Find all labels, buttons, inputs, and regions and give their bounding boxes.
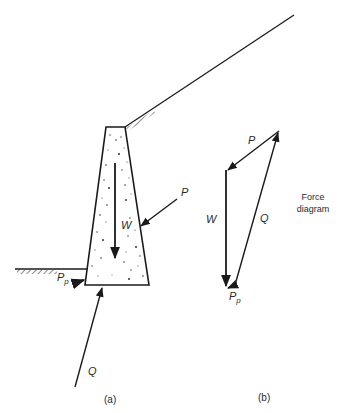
active-thrust-label: P	[181, 186, 189, 198]
passive-thrust-arrow	[75, 280, 84, 283]
weight-label: W	[121, 219, 133, 231]
force-diagram-title-line2: diagram	[297, 204, 330, 214]
panel-a: W P Pp Q (a)	[15, 15, 294, 405]
force-p-label: P	[248, 134, 256, 146]
retaining-wall-diagram: W P Pp Q (a) P W Pp Q Force diagram (b)	[0, 0, 343, 413]
force-q-label: Q	[260, 212, 269, 224]
force-q-vector	[235, 133, 278, 285]
backfill-slope-line	[125, 15, 294, 127]
active-thrust-arrow	[141, 199, 177, 226]
force-w-label: W	[206, 213, 218, 225]
gravity-wall	[85, 127, 149, 285]
ground-hatching	[17, 270, 57, 274]
panel-b-force-diagram: P W Pp Q Force diagram (b)	[206, 131, 329, 403]
slope-hatching	[126, 110, 155, 131]
passive-thrust-label: Pp	[57, 271, 69, 286]
panel-a-caption: (a)	[104, 394, 116, 405]
force-diagram-title-line1: Force	[301, 192, 324, 202]
panel-b-caption: (b)	[258, 392, 270, 403]
force-pp-vector	[228, 285, 235, 288]
reaction-label: Q	[88, 365, 97, 377]
force-pp-label: Pp	[229, 290, 241, 305]
